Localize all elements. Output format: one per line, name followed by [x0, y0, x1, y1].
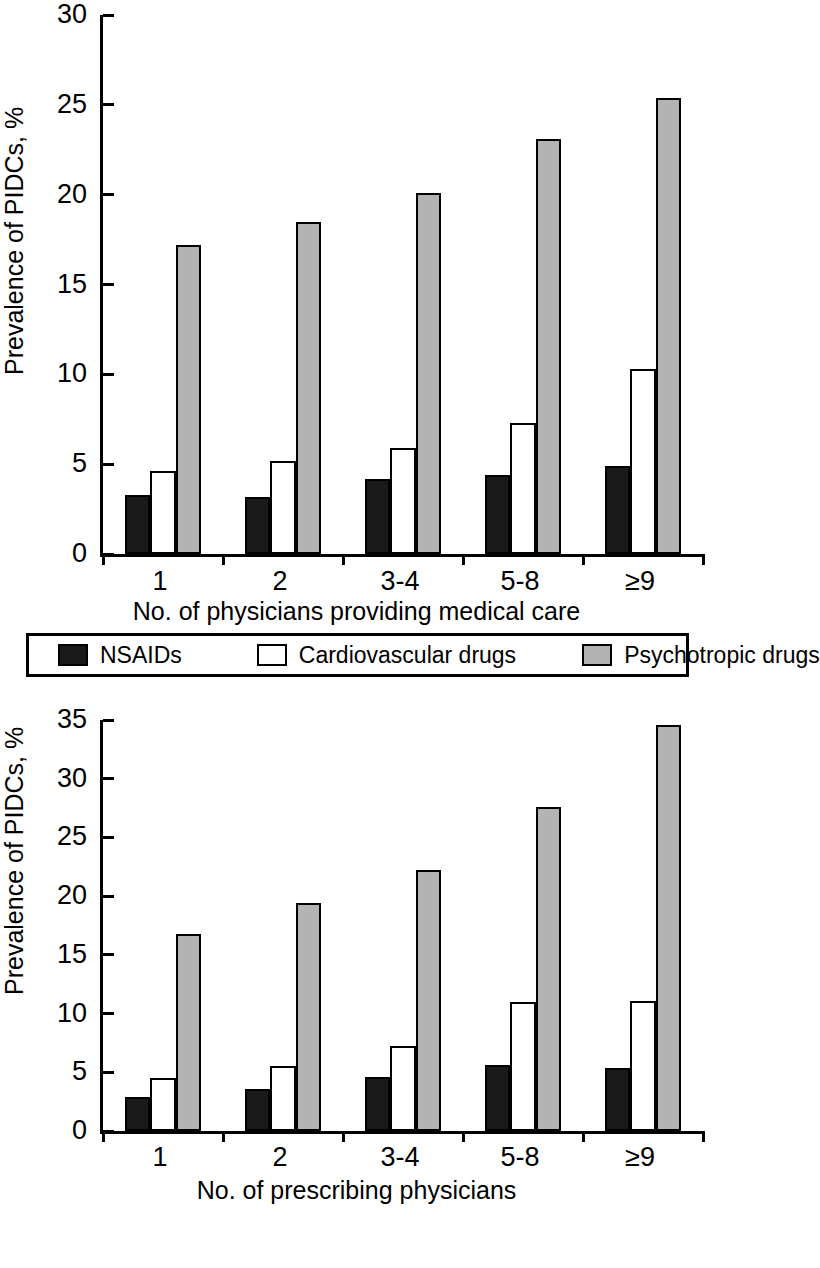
y-tick-mark — [103, 953, 114, 956]
legend-label-psychotropic-drugs: Psychotropic drugs — [624, 642, 820, 669]
x-tick-mark — [582, 554, 585, 565]
y-tick-label: 25 — [57, 820, 87, 852]
y-tick-mark — [103, 895, 114, 898]
y-tick-label: 20 — [57, 879, 87, 911]
x-tick-mark — [102, 1131, 105, 1142]
x-tick-mark — [462, 554, 465, 565]
bar-cardio-1 — [150, 1078, 176, 1131]
x-tick-mark — [342, 1131, 345, 1142]
bar-nsaids-5-8 — [485, 1065, 511, 1131]
y-tick-label: 30 — [57, 762, 87, 794]
x-category-label-2: 2 — [272, 1142, 287, 1172]
y-axis-title-top: Prevalence of PIDCs, % — [0, 175, 29, 375]
bar-group-container-bottom — [103, 720, 703, 1131]
bar-nsaids-2 — [245, 497, 271, 554]
x-tick-mark — [702, 1131, 705, 1142]
y-tick-mark — [103, 14, 114, 17]
x-category-label-5-8: 5-8 — [500, 566, 539, 596]
y-tick-mark — [103, 836, 114, 839]
chart-panel-top: Prevalence of PIDCs, % 051015202530 No. … — [0, 0, 713, 620]
legend-item-psychotropic-drugs: Psychotropic drugs — [582, 642, 820, 669]
y-tick-mark — [103, 373, 114, 376]
y-tick-mark — [103, 463, 114, 466]
bar-cardio-1 — [150, 471, 176, 554]
legend-swatch-nsaids-icon — [58, 644, 88, 666]
y-tick-mark — [103, 283, 114, 286]
bar-group-container-top — [103, 15, 703, 554]
bar-nsaids-3-4 — [365, 1077, 391, 1131]
x-category-label-ge9: ≥9 — [625, 566, 655, 596]
y-tick-label: 35 — [57, 703, 87, 735]
bar-cardio-ge9 — [630, 1001, 656, 1131]
y-tick-label: 10 — [57, 357, 87, 389]
y-tick-label: 10 — [57, 997, 87, 1029]
y-axis-title-bottom: Prevalence of PIDCs, % — [0, 795, 29, 995]
x-tick-mark — [582, 1131, 585, 1142]
bar-psychotropic-5-8 — [536, 139, 562, 554]
bar-psychotropic-1 — [176, 934, 202, 1131]
bar-cardio-2 — [270, 1066, 296, 1131]
chart-legend: NSAIDs Cardiovascular drugs Psychotropic… — [26, 633, 689, 677]
bar-psychotropic-1 — [176, 245, 202, 554]
bar-cardio-3-4 — [390, 1046, 416, 1131]
bar-psychotropic-ge9 — [656, 98, 682, 554]
x-category-label-2: 2 — [272, 566, 287, 596]
x-tick-mark — [222, 554, 225, 565]
x-tick-mark — [102, 554, 105, 565]
y-tick-label: 5 — [72, 1055, 87, 1087]
x-category-label-ge9: ≥9 — [625, 1142, 655, 1172]
bar-psychotropic-ge9 — [656, 725, 682, 1131]
bar-cardio-5-8 — [510, 423, 536, 554]
x-axis-title-top: No. of physicians providing medical care — [0, 597, 713, 626]
bar-nsaids-3-4 — [365, 479, 391, 554]
bar-psychotropic-2 — [296, 222, 322, 554]
bar-psychotropic-2 — [296, 903, 322, 1131]
plot-area-top: 051015202530 — [100, 15, 703, 557]
y-tick-label: 15 — [57, 938, 87, 970]
legend-swatch-cardiovascular-icon — [257, 644, 287, 666]
bar-nsaids-ge9 — [605, 466, 631, 554]
y-tick-label: 30 — [57, 0, 87, 30]
bar-nsaids-5-8 — [485, 475, 511, 554]
y-tick-label: 20 — [57, 178, 87, 210]
bar-psychotropic-3-4 — [416, 193, 442, 554]
x-category-label-1: 1 — [152, 566, 167, 596]
y-tick-label: 0 — [72, 1114, 87, 1146]
x-category-label-5-8: 5-8 — [500, 1142, 539, 1172]
y-tick-mark — [103, 193, 114, 196]
bar-nsaids-1 — [125, 1097, 151, 1131]
x-category-label-3-4: 3-4 — [380, 1142, 419, 1172]
bar-nsaids-2 — [245, 1089, 271, 1131]
bar-psychotropic-3-4 — [416, 870, 442, 1131]
bar-nsaids-ge9 — [605, 1068, 631, 1131]
legend-label-cardiovascular-drugs: Cardiovascular drugs — [299, 642, 516, 669]
y-tick-label: 0 — [72, 537, 87, 569]
x-tick-mark — [222, 1131, 225, 1142]
legend-item-nsaids: NSAIDs — [58, 642, 182, 669]
y-tick-mark — [103, 103, 114, 106]
x-tick-mark — [462, 1131, 465, 1142]
y-tick-label: 25 — [57, 88, 87, 120]
y-tick-mark — [103, 719, 114, 722]
bar-cardio-2 — [270, 461, 296, 554]
chart-panel-bottom: Prevalence of PIDCs, % 05101520253035 No… — [0, 690, 713, 1268]
y-tick-label: 15 — [57, 268, 87, 300]
bar-cardio-3-4 — [390, 448, 416, 554]
y-tick-mark — [103, 1130, 114, 1133]
legend-swatch-psychotropic-icon — [582, 644, 612, 666]
legend-item-cardiovascular-drugs: Cardiovascular drugs — [257, 642, 516, 669]
bar-psychotropic-5-8 — [536, 807, 562, 1131]
plot-area-bottom: 05101520253035 — [100, 720, 703, 1134]
x-category-label-1: 1 — [152, 1142, 167, 1172]
x-tick-mark — [702, 554, 705, 565]
x-category-label-3-4: 3-4 — [380, 566, 419, 596]
y-tick-mark — [103, 777, 114, 780]
y-tick-label: 5 — [72, 447, 87, 479]
legend-label-nsaids: NSAIDs — [100, 642, 182, 669]
x-tick-mark — [342, 554, 345, 565]
y-tick-mark — [103, 553, 114, 556]
x-axis-title-bottom: No. of prescribing physicians — [0, 1176, 713, 1205]
y-tick-mark — [103, 1012, 114, 1015]
bar-nsaids-1 — [125, 495, 151, 554]
